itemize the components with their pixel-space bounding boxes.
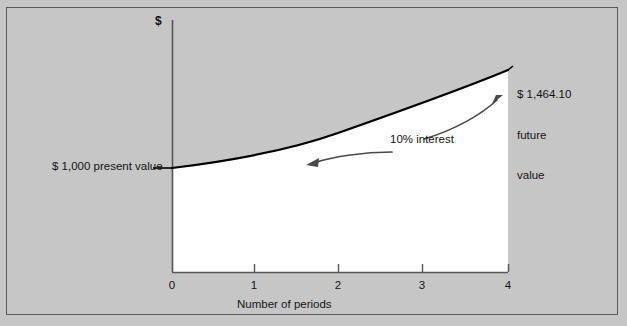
x-tick-label-1: 1 <box>244 279 264 291</box>
future-value-amount: $ 1,464.10 <box>517 88 571 102</box>
x-tick-label-0: 0 <box>162 279 182 291</box>
x-tick-label-4: 4 <box>498 279 518 291</box>
y-axis-symbol-label: $ <box>155 14 162 28</box>
present-value-label: $ 1,000 present value <box>52 160 163 172</box>
future-value-word-value: value <box>517 169 571 183</box>
figure-canvas: $ $ 1,000 present value $ 1,464.10 futur… <box>0 0 627 326</box>
x-tick-label-3: 3 <box>412 279 432 291</box>
x-axis-title: Number of periods <box>237 298 332 310</box>
future-value-label: $ 1,464.10 future value <box>517 61 571 210</box>
future-value-word-future: future <box>517 129 571 143</box>
area-under-curve <box>172 70 508 272</box>
interest-rate-label: 10% interest <box>390 133 454 145</box>
x-tick-label-2: 2 <box>328 279 348 291</box>
future-value-leader <box>508 66 513 70</box>
